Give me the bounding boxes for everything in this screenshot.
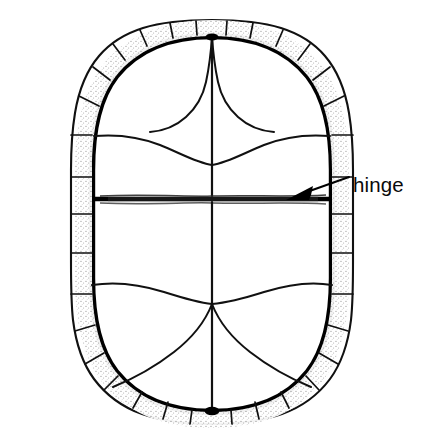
hinge-label: hinge (353, 173, 404, 196)
posterior-midline-node (205, 407, 220, 415)
figure-root: hinge (0, 0, 424, 447)
anterior-midline-node (206, 33, 219, 40)
plastron-illustration: hinge (0, 0, 424, 447)
